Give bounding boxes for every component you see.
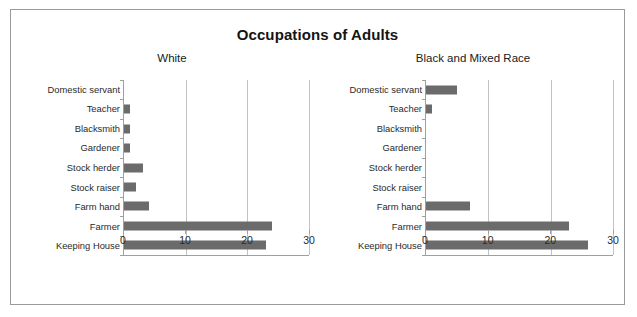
category-tick	[422, 80, 426, 81]
chart-panel-black-mixed-race: Black and Mixed Race Domestic servantTea…	[317, 52, 619, 292]
bar	[124, 182, 136, 191]
category-tick	[120, 197, 124, 198]
category-tick	[422, 216, 426, 217]
category-tick	[422, 99, 426, 100]
bar	[124, 124, 130, 133]
category-axis-white: Domestic servantTeacherBlacksmithGardene…	[15, 80, 123, 256]
panel-subtitle-black-mixed-race: Black and Mixed Race	[317, 52, 619, 64]
category-label: Keeping House	[358, 242, 422, 251]
bar	[426, 85, 457, 94]
value-tick-label: 30	[607, 234, 619, 246]
category-label: Keeping House	[56, 242, 120, 251]
bar	[124, 144, 130, 153]
category-label: Gardener	[80, 144, 120, 153]
category-label: Stock herder	[369, 163, 422, 172]
value-tick-label: 0	[422, 234, 428, 246]
value-tick-label: 10	[482, 234, 494, 246]
category-tick	[120, 216, 124, 217]
category-axis-black-mixed-race: Domestic servantTeacherBlacksmithGardene…	[317, 80, 425, 256]
category-tick	[422, 158, 426, 159]
value-tick-label: 20	[544, 234, 556, 246]
bar	[124, 202, 149, 211]
category-tick	[120, 255, 124, 256]
category-label: Blacksmith	[75, 124, 120, 133]
figure-frame: Occupations of Adults White Domestic ser…	[10, 9, 625, 305]
category-tick	[120, 158, 124, 159]
panel-subtitle-white: White	[15, 52, 315, 64]
category-tick	[422, 138, 426, 139]
category-label: Domestic servant	[350, 85, 422, 94]
category-tick	[120, 119, 124, 120]
gridline	[309, 80, 310, 255]
category-tick	[422, 255, 426, 256]
bar	[124, 221, 272, 230]
category-tick	[120, 138, 124, 139]
gridline	[613, 80, 614, 255]
category-label: Farm hand	[75, 202, 120, 211]
value-axis-black-mixed-race: 0102030	[425, 230, 613, 250]
category-label: Blacksmith	[377, 124, 422, 133]
value-tick-label: 30	[303, 234, 315, 246]
category-label: Farmer	[392, 222, 422, 231]
category-tick	[120, 99, 124, 100]
value-tick-label: 0	[120, 234, 126, 246]
category-label: Gardener	[382, 144, 422, 153]
page-title: Occupations of Adults	[11, 26, 624, 43]
category-tick	[120, 177, 124, 178]
value-tick-label: 20	[241, 234, 253, 246]
chart-panel-white: White Domestic servantTeacherBlacksmithG…	[15, 52, 315, 292]
category-label: Stock herder	[67, 163, 120, 172]
value-axis-white: 0102030	[123, 230, 309, 250]
category-label: Farmer	[90, 222, 120, 231]
bar	[426, 202, 470, 211]
category-label: Domestic servant	[48, 85, 120, 94]
category-label: Farm hand	[377, 202, 422, 211]
bar	[124, 163, 143, 172]
bar	[426, 221, 569, 230]
category-label: Stock raiser	[373, 183, 423, 192]
category-tick	[422, 197, 426, 198]
category-tick	[120, 80, 124, 81]
bar	[124, 105, 130, 114]
category-tick	[422, 119, 426, 120]
category-label: Teacher	[87, 105, 120, 114]
category-tick	[422, 177, 426, 178]
bar	[426, 105, 432, 114]
category-label: Teacher	[389, 105, 422, 114]
category-label: Stock raiser	[71, 183, 121, 192]
value-tick-label: 10	[179, 234, 191, 246]
